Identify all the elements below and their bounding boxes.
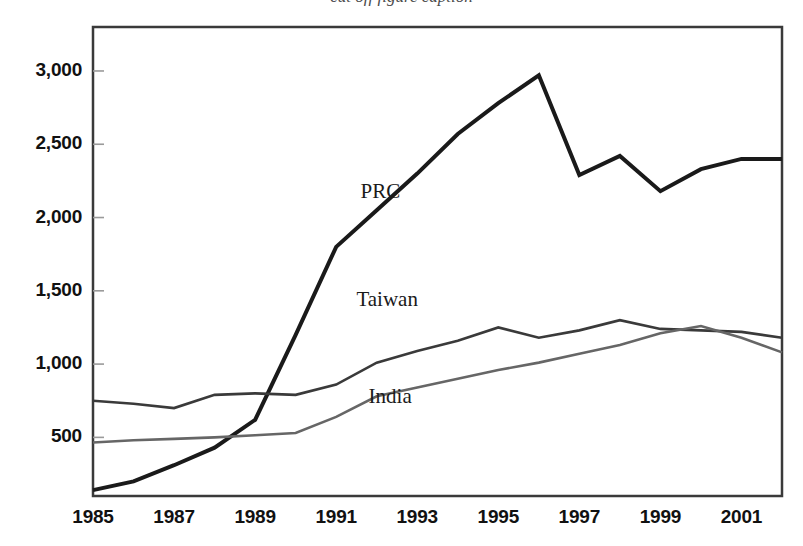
y-axis-tick-label: 2,000	[2, 206, 82, 228]
x-axis-tick-label: 1985	[63, 506, 123, 528]
series-label-taiwan: Taiwan	[356, 287, 418, 312]
y-axis-tick-label: 3,000	[2, 59, 82, 81]
line-chart-plot	[0, 0, 803, 546]
series-line-india	[93, 326, 782, 443]
x-axis-tick-label: 1999	[630, 506, 690, 528]
series-line-prc	[93, 75, 782, 490]
y-axis-tick-label: 1,500	[2, 279, 82, 301]
axes-frame	[93, 27, 782, 496]
x-axis-tick-label: 1987	[144, 506, 204, 528]
series-label-india: India	[369, 384, 412, 409]
y-axis-tick-label: 2,500	[2, 132, 82, 154]
plot-frame	[93, 27, 782, 496]
series-line-taiwan	[93, 320, 782, 408]
x-axis-tick-label: 1991	[306, 506, 366, 528]
x-axis-tick-label: 1995	[468, 506, 528, 528]
series-lines	[93, 75, 782, 490]
x-axis-tick-label: 1989	[225, 506, 285, 528]
figure-container: cut off figure caption 5001,0001,5002,00…	[0, 0, 803, 546]
y-axis-tick-label: 1,000	[2, 352, 82, 374]
y-axis-tick-label: 500	[2, 425, 82, 447]
y-axis-ticks	[93, 71, 104, 437]
x-axis-tick-label: 1997	[549, 506, 609, 528]
series-label-prc: PRC	[360, 179, 400, 204]
x-axis-tick-label: 2001	[711, 506, 771, 528]
x-axis-tick-label: 1993	[387, 506, 447, 528]
